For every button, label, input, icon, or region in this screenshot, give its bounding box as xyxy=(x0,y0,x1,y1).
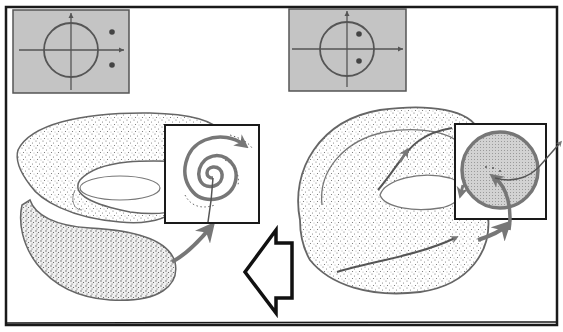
flow-arrow xyxy=(172,228,210,262)
right-eigenvalue-plot xyxy=(289,9,406,91)
left-eigenvalue-plot xyxy=(13,10,129,93)
eigenvalue-lower xyxy=(356,58,362,64)
left-inset-spiral xyxy=(165,125,259,223)
eigenvalue-upper xyxy=(356,31,362,37)
eigenvalue-lower xyxy=(109,62,115,68)
transition-arrow-left xyxy=(245,230,292,313)
bifurcation-diagram xyxy=(0,0,563,332)
right-inset-invariant-circle xyxy=(455,124,560,230)
eigenvalue-upper xyxy=(109,29,115,35)
